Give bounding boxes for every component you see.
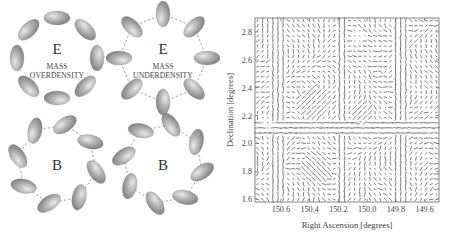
panel-e-under: EMASSUNDERDENSITY xyxy=(106,1,220,115)
galaxy-ellipse xyxy=(44,11,70,25)
y-axis-ticks: 1.61.82.02.22.42.62.8 xyxy=(242,28,439,204)
galaxy-ellipse xyxy=(118,13,146,41)
y-tick-label: 1.8 xyxy=(242,167,252,176)
galaxy-ellipse xyxy=(34,190,63,216)
galaxy-ellipse xyxy=(120,172,139,200)
mode-label: B xyxy=(52,157,62,173)
y-tick-label: 2.2 xyxy=(242,112,252,121)
x-tick-label: 150.0 xyxy=(358,205,376,214)
panel-b-left: B xyxy=(5,112,109,216)
galaxy-ellipse xyxy=(109,143,138,169)
y-tick-label: 2.8 xyxy=(242,28,252,37)
galaxy-ellipse xyxy=(44,91,70,105)
panel-e-over: EMASSOVERDENSITY xyxy=(10,11,104,105)
galaxy-ellipse xyxy=(71,16,99,44)
galaxy-ellipse xyxy=(106,51,132,65)
galaxy-ellipse xyxy=(156,89,170,115)
galaxy-ellipse xyxy=(83,157,109,186)
panel-b-right: B xyxy=(109,110,217,218)
galaxy-ellipse xyxy=(142,188,168,217)
x-axis-label: Right Ascension [degrees] xyxy=(302,220,393,230)
x-tick-label: 149.8 xyxy=(387,205,405,214)
shear-whisker-map: 150.6150.4150.2150.0149.8149.6 1.61.82.0… xyxy=(225,18,440,230)
y-axis-label: Declination [degrees] xyxy=(225,73,235,147)
galaxy-ellipse xyxy=(15,16,43,44)
y-tick-label: 1.6 xyxy=(242,195,252,204)
y-tick-label: 2.0 xyxy=(242,139,252,148)
galaxy-ellipse xyxy=(180,13,208,41)
galaxy-ellipse xyxy=(187,128,206,156)
galaxy-ellipse xyxy=(156,1,170,27)
panel-caption: MASS xyxy=(152,62,173,71)
galaxy-ellipse xyxy=(187,159,216,185)
panel-caption: MASS xyxy=(46,62,67,71)
galaxy-ellipse xyxy=(171,188,199,207)
x-tick-label: 150.2 xyxy=(329,205,347,214)
figure-canvas: EMASSOVERDENSITYEMASSUNDERDENSITYBB 150.… xyxy=(0,0,449,237)
eb-mode-diagrams: EMASSOVERDENSITYEMASSUNDERDENSITYBB xyxy=(5,1,220,218)
galaxy-ellipse xyxy=(10,45,24,71)
panel-caption: OVERDENSITY xyxy=(30,71,85,80)
x-tick-label: 150.6 xyxy=(272,205,290,214)
galaxy-ellipse xyxy=(127,121,155,140)
mode-label: B xyxy=(158,157,168,173)
whisker-field xyxy=(254,18,439,203)
y-tick-label: 2.4 xyxy=(242,84,252,93)
galaxy-ellipse xyxy=(194,51,220,65)
mode-label: E xyxy=(52,41,61,57)
panel-caption: UNDERDENSITY xyxy=(133,71,193,80)
galaxy-ellipse xyxy=(5,141,31,170)
x-tick-label: 150.4 xyxy=(300,205,318,214)
galaxy-ellipse xyxy=(90,45,104,71)
mode-label: E xyxy=(158,41,167,57)
y-tick-label: 2.6 xyxy=(242,56,252,65)
galaxy-ellipse xyxy=(50,112,79,138)
x-tick-label: 149.6 xyxy=(415,205,433,214)
